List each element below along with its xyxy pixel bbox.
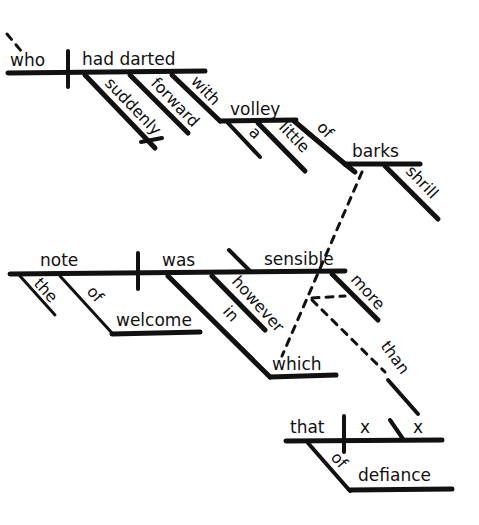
clause-that-x-x: that x x of defiance xyxy=(286,416,452,491)
baseline-welcome xyxy=(112,332,200,334)
clause-who-had-darted: who had darted suddenly forward with vol… xyxy=(7,34,442,219)
word-the: the xyxy=(30,274,62,306)
word-that: that xyxy=(290,417,325,437)
modifier-line-of-2 xyxy=(60,276,112,333)
complement-divider-2 xyxy=(229,250,251,272)
dashed-more-connector xyxy=(312,296,345,298)
word-x-verb: x xyxy=(360,417,370,437)
word-welcome: welcome xyxy=(116,310,192,330)
word-sensible: sensible xyxy=(264,249,334,269)
word-of-2: of xyxy=(83,282,108,306)
word-volley: volley xyxy=(230,99,280,119)
than-line xyxy=(388,380,418,414)
word-barks: barks xyxy=(352,141,399,161)
clause-note-was-sensible: note was sensible the of welcome however… xyxy=(10,249,418,414)
word-who: who xyxy=(10,50,45,70)
word-x-complement: x xyxy=(413,417,423,437)
baseline-defiance xyxy=(350,489,452,490)
word-had-darted: had darted xyxy=(82,49,176,69)
word-than: than xyxy=(377,337,414,378)
word-with: with xyxy=(187,72,224,110)
baseline-which xyxy=(270,375,336,377)
sentence-diagram: who had darted suddenly forward with vol… xyxy=(0,0,479,525)
word-defiance: defiance xyxy=(358,465,431,485)
baseline-2 xyxy=(10,271,345,274)
baseline-1 xyxy=(8,71,205,73)
word-was: was xyxy=(162,250,195,270)
baseline-3 xyxy=(286,440,442,441)
word-which: which xyxy=(272,354,322,374)
word-shrill: shrill xyxy=(402,162,442,203)
word-note: note xyxy=(40,250,78,270)
complement-divider-3 xyxy=(390,420,403,439)
